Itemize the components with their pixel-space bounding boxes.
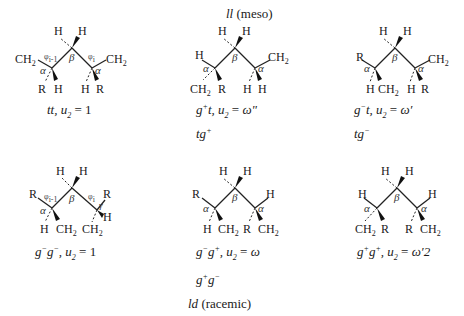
gpgp-right-down1: R	[405, 222, 413, 237]
gpgp-top-right-atom: H	[405, 164, 414, 179]
gpgp-right-atom: H	[428, 187, 437, 202]
gpgp-left-down1: CH2	[355, 222, 376, 238]
conformation-figure: ll (meso) ld (racemic) H H CH2 CH2 R H H…	[0, 0, 464, 316]
gpgp-left-atom: H	[358, 187, 367, 202]
gpgp-right-down2: CH2	[420, 222, 441, 238]
gpgp-left-down2: R	[381, 222, 389, 237]
structure-g-plus-g-plus	[0, 0, 464, 316]
gpgp-beta: β	[394, 191, 399, 203]
gpgp-alpha-left: α	[364, 202, 370, 214]
gpgp-caption: g+g+, u2 = ω′2	[357, 244, 430, 262]
gpgp-top-left-atom: H	[381, 164, 390, 179]
gpgp-alpha-right: α	[421, 202, 427, 214]
